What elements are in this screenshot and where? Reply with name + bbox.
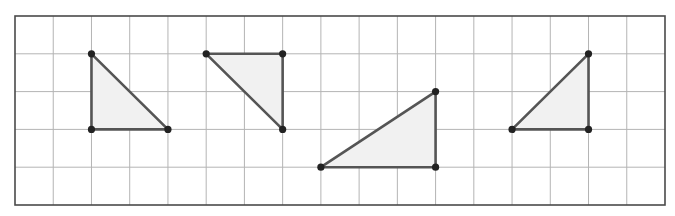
vertex-dot: [88, 126, 95, 133]
vertex-dot: [508, 126, 515, 133]
vertex-dot: [164, 126, 171, 133]
vertex-dot: [279, 126, 286, 133]
vertex-dot: [279, 50, 286, 57]
vertex-dot: [585, 50, 592, 57]
vertex-dot: [585, 126, 592, 133]
vertex-dot: [432, 88, 439, 95]
vertex-dot: [203, 50, 210, 57]
vertex-dot: [432, 164, 439, 171]
grid-diagram: [0, 0, 675, 216]
vertex-dot: [88, 50, 95, 57]
vertex-dot: [317, 164, 324, 171]
